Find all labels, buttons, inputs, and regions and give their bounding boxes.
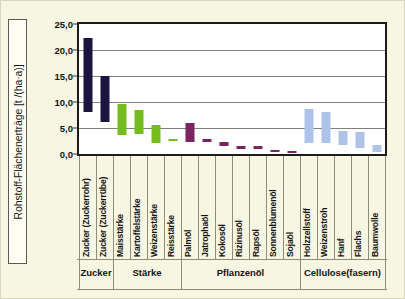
plot-inner xyxy=(79,24,385,154)
y-tick-label: 25,0 xyxy=(31,19,73,30)
category-separator xyxy=(368,156,369,259)
category-label: Kokosöl xyxy=(217,224,227,257)
category-separator xyxy=(96,156,97,259)
category-label: Rapsöl xyxy=(251,229,261,257)
y-axis-title-box: Rohstoff-Flächenerträge [t /(ha·a)] xyxy=(8,19,27,264)
bar-raps-l xyxy=(253,146,262,149)
category-label: Sojaöl xyxy=(285,232,295,257)
category-label: Zucker (Zuckerrohr) xyxy=(81,178,91,257)
gridline xyxy=(79,50,385,51)
y-tick-label: 5,0 xyxy=(31,123,73,134)
category-label: Sonnenblumenöl xyxy=(268,189,278,257)
category-separator xyxy=(232,156,233,259)
category-label: Weizenstärke xyxy=(149,204,159,257)
group-separator xyxy=(385,259,386,289)
y-axis-title: Rohstoff-Flächenerträge [t /(ha·a)] xyxy=(12,64,24,219)
y-tick-label: 15,0 xyxy=(31,71,73,82)
group-label-band: ZuckerStärkePflanzenölCellulose(fasern) xyxy=(77,259,387,289)
category-separator xyxy=(181,156,182,259)
group-label: Stärke xyxy=(113,267,181,278)
bar-soja-l xyxy=(287,151,296,153)
bar-baumwolle xyxy=(372,145,381,152)
bar-holzzellstoff xyxy=(304,109,313,142)
bar-weizenst-rke xyxy=(151,125,160,143)
category-label: Weizenstroh xyxy=(319,208,329,257)
category-separator xyxy=(351,156,352,259)
category-label: Maisstärke xyxy=(115,214,125,257)
bar-weizenstroh xyxy=(321,112,330,143)
category-label: Flachs xyxy=(353,231,363,257)
category-separator xyxy=(130,156,131,259)
bar-zucker-zuckerrohr xyxy=(83,38,92,113)
bar-flachs xyxy=(355,132,364,148)
group-label: Cellulose(fasern) xyxy=(300,267,385,278)
bar-reisst-rke xyxy=(168,139,177,141)
category-label: Rizinusöl xyxy=(234,220,244,257)
category-separator xyxy=(113,156,114,259)
gridline xyxy=(79,102,385,103)
category-label: Hanf xyxy=(336,239,346,258)
y-tick-label: 0,0 xyxy=(31,149,73,160)
category-separator xyxy=(300,156,301,259)
y-tick-label: 10,0 xyxy=(31,97,73,108)
category-label: Zucker (Zuckerrübe) xyxy=(98,177,108,257)
group-label: Zucker xyxy=(79,267,113,278)
bar-rizinus-l xyxy=(236,146,245,149)
category-separator xyxy=(198,156,199,259)
y-axis-ticks: 0,05,010,015,020,025,0 xyxy=(27,22,73,156)
category-separator xyxy=(317,156,318,259)
category-separator xyxy=(334,156,335,259)
category-label-band: Zucker (Zuckerrohr)Zucker (Zuckerrübe)Ma… xyxy=(77,156,387,259)
category-separator xyxy=(249,156,250,259)
category-label: Palmöl xyxy=(183,230,193,257)
category-label: Reisstärke xyxy=(166,215,176,257)
plot-area xyxy=(77,22,387,156)
group-label: Pflanzenöl xyxy=(181,267,300,278)
category-separator xyxy=(79,156,80,259)
bar-maisst-rke xyxy=(117,104,126,135)
bar-kokos-l xyxy=(219,142,228,146)
category-label: Jatrophaöl xyxy=(200,215,210,257)
category-separator xyxy=(147,156,148,259)
y-tick-label: 20,0 xyxy=(31,45,73,56)
category-label: Holzzellstoff xyxy=(302,208,312,257)
category-separator xyxy=(385,156,386,259)
bar-jatropha-l xyxy=(202,139,211,141)
category-separator xyxy=(283,156,284,259)
category-separator xyxy=(164,156,165,259)
bar-hanf xyxy=(338,131,347,145)
group-band-bottom-rule xyxy=(77,289,387,290)
category-separator xyxy=(266,156,267,259)
category-label: Kartoffelstärke xyxy=(132,199,142,257)
chart-figure: Rohstoff-Flächenerträge [t /(ha·a)] 0,05… xyxy=(0,0,405,299)
bar-zucker-zuckerr-be xyxy=(100,76,109,122)
bar-sonnenblumen-l xyxy=(270,150,279,152)
category-label: Baumwolle xyxy=(370,213,380,257)
gridline xyxy=(79,76,385,77)
bar-palm-l xyxy=(185,123,194,142)
category-separator xyxy=(215,156,216,259)
bar-kartoffelst-rke xyxy=(134,110,143,133)
